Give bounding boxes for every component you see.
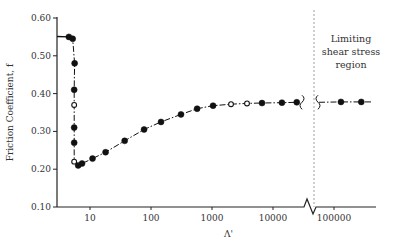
x-tick-label: 1000 [201,213,224,223]
y-tick-label: 0.30 [31,126,51,136]
y-tick-label: 0.40 [31,89,51,99]
filled-data-point [158,119,164,125]
filled-data-point [103,149,109,155]
open-data-point [72,159,77,164]
filled-data-point [71,125,77,131]
filled-data-point [210,103,216,109]
annotation-text: shear stress [322,46,381,57]
y-axis-title: Friction Coefficient, f [5,63,15,161]
x-tick-label: 100 [142,213,159,223]
x-tick-label: 10000 [259,213,288,223]
open-data-point [229,102,234,107]
filled-data-point [71,87,77,93]
filled-data-point [194,106,200,112]
annotation-text: Limiting [331,33,371,44]
filled-data-point [90,156,96,162]
open-data-point [72,103,77,108]
annotation: Limitingshear stressregion [314,10,380,207]
y-tick-label: 0.10 [31,202,51,212]
x-axis-title: Λ' [223,229,233,239]
filled-data-point [259,100,265,106]
x-tick-label: 100000 [317,213,352,223]
filled-data-point [72,60,78,66]
axes: 0.100.200.300.400.500.601010010001000010… [5,13,376,239]
open-data-point [245,101,250,106]
annotation-text: region [335,59,366,70]
filled-data-point [122,138,128,144]
filled-data-point [70,36,76,42]
x-axis-line [57,199,376,214]
y-tick-label: 0.20 [31,164,51,174]
filled-data-point [178,111,184,117]
friction-coefficient-chart: 0.100.200.300.400.500.601010010001000010… [0,0,394,249]
filled-data-point [294,99,300,105]
x-tick-label: 10 [84,213,96,223]
filled-data-point [79,161,85,167]
data-markers [66,34,364,169]
filled-data-point [71,140,77,146]
filled-data-point [279,100,285,106]
y-tick-label: 0.50 [31,51,51,61]
filled-data-point [338,99,344,105]
filled-data-point [141,127,147,133]
y-tick-label: 0.60 [31,13,51,23]
filled-data-point [358,99,364,105]
